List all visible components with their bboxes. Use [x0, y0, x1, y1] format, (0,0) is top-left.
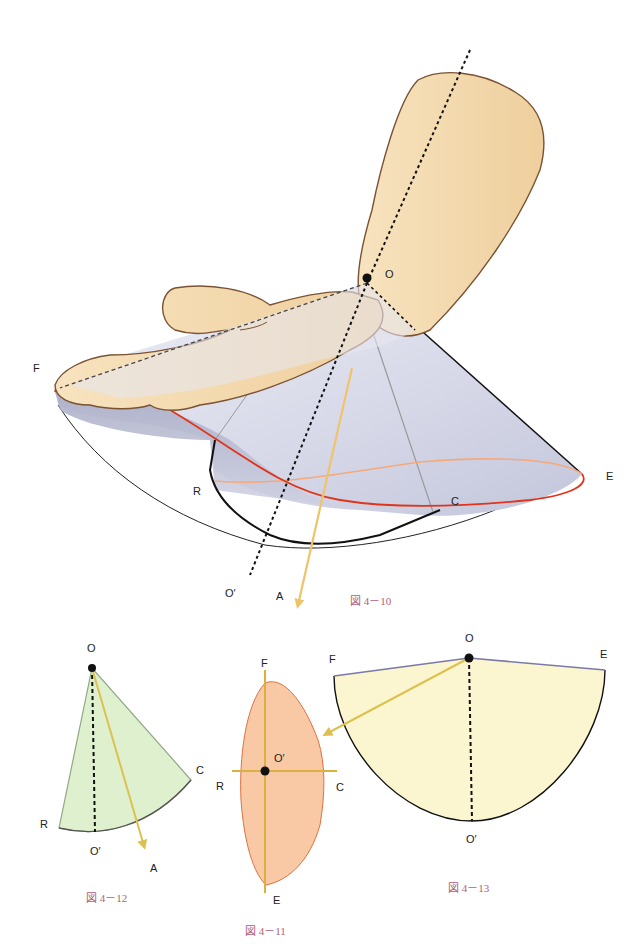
label-r: R [193, 485, 201, 497]
label-f: F [33, 362, 40, 374]
label-o-prime: O′ [225, 587, 236, 599]
label-o-prime: O′ [466, 833, 477, 845]
label-o: O [87, 642, 96, 654]
figure-4-11: F E R C O′ 図 4－11 [216, 657, 344, 937]
caption-fig-4-13: 図 4－13 [448, 882, 490, 894]
figure-4-13: O F E O′ 図 4－13 [326, 632, 607, 894]
apex-point-o [88, 664, 96, 672]
diagram-canvas: O F E R C O′ A 図 4－10 O R C O′ A 図 4－12 … [0, 0, 644, 944]
center-point-o-prime [261, 767, 270, 776]
base-oval [241, 682, 324, 885]
label-o: O [465, 632, 474, 644]
label-c: C [336, 781, 344, 793]
label-o-prime: O′ [274, 752, 285, 764]
forearm [358, 73, 544, 336]
label-a: A [150, 862, 158, 874]
label-o: O [385, 268, 394, 280]
label-r: R [216, 780, 224, 792]
apex-point-o [465, 654, 474, 663]
figure-4-12: O R C O′ A 図 4－12 [40, 642, 204, 904]
label-f: F [329, 653, 336, 665]
apex-point-o [363, 274, 372, 283]
caption-fig-4-11: 図 4－11 [245, 925, 286, 937]
label-c: C [451, 495, 459, 507]
label-a: A [276, 590, 284, 602]
label-r: R [40, 818, 48, 830]
caption-fig-4-10: 図 4－10 [350, 595, 392, 607]
label-c: C [196, 764, 204, 776]
label-o-prime: O′ [90, 845, 101, 857]
label-f: F [261, 657, 268, 669]
label-e: E [606, 470, 613, 482]
sector-green [59, 668, 191, 832]
figure-4-10: O F E R C O′ A 図 4－10 [33, 50, 613, 607]
caption-fig-4-12: 図 4－12 [86, 892, 127, 904]
label-e: E [273, 894, 280, 906]
label-e: E [600, 648, 607, 660]
